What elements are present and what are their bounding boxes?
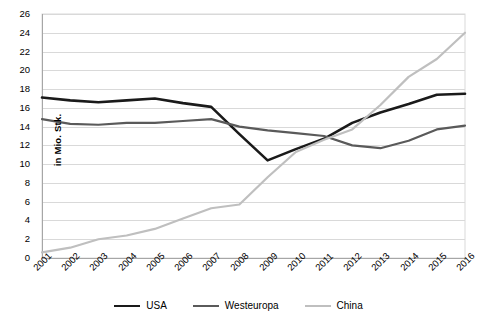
y-tick-label: 20 bbox=[8, 65, 30, 75]
chart-plot-area bbox=[0, 0, 477, 336]
y-tick-label: 18 bbox=[8, 84, 30, 94]
legend-label: Westeuropa bbox=[225, 300, 279, 311]
y-tick-label: 22 bbox=[8, 47, 30, 57]
legend-swatch-china bbox=[305, 305, 331, 307]
legend-item-china[interactable]: China bbox=[305, 300, 363, 311]
legend-item-westeuropa[interactable]: Westeuropa bbox=[193, 300, 279, 311]
plot-frame bbox=[42, 14, 465, 258]
line-chart: in Mio. Stk. 02468101214161820222426 200… bbox=[0, 0, 477, 336]
legend-label: China bbox=[337, 300, 363, 311]
chart-legend: USAWesteuropaChina bbox=[0, 300, 477, 311]
y-tick-label: 14 bbox=[8, 122, 30, 132]
y-tick-label: 8 bbox=[8, 178, 30, 188]
y-tick-label: 16 bbox=[8, 103, 30, 113]
y-tick-label: 2 bbox=[8, 234, 30, 244]
y-tick-label: 26 bbox=[8, 9, 30, 19]
y-tick-label: 24 bbox=[8, 28, 30, 38]
y-axis-title: in Mio. Stk. bbox=[52, 80, 63, 200]
y-tick-label: 0 bbox=[8, 253, 30, 263]
legend-item-usa[interactable]: USA bbox=[114, 300, 167, 311]
legend-swatch-westeuropa bbox=[193, 305, 219, 307]
legend-label: USA bbox=[146, 300, 167, 311]
y-tick-label: 4 bbox=[8, 215, 30, 225]
y-tick-label: 10 bbox=[8, 159, 30, 169]
legend-swatch-usa bbox=[114, 305, 140, 307]
y-tick-label: 6 bbox=[8, 197, 30, 207]
y-tick-label: 12 bbox=[8, 140, 30, 150]
